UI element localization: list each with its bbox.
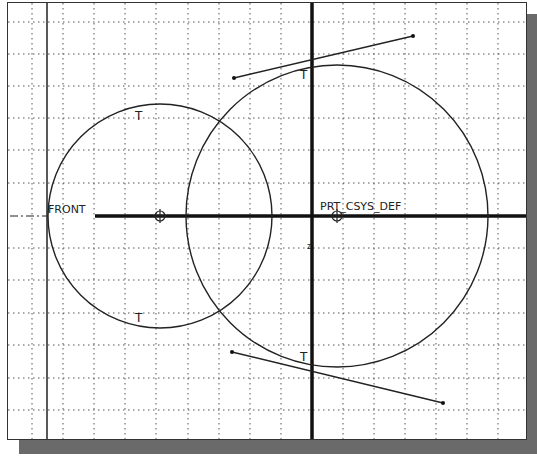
small-circle-center-icon[interactable] (153, 209, 167, 223)
tangent-constraint-large-top[interactable]: T (299, 68, 308, 82)
tangent-constraint-small-top[interactable]: T (134, 109, 143, 123)
axis-marker-label: z (307, 242, 311, 251)
sketch-drawing[interactable]: FRONT PRT_CSYS_DEF z T T T T (0, 0, 537, 457)
grid (8, 3, 526, 440)
top-tangent-endpoint-right[interactable] (411, 34, 415, 38)
csys-label: PRT_CSYS_DEF (320, 200, 401, 213)
tangent-constraint-large-bottom[interactable]: T (299, 350, 308, 364)
bottom-tangent-endpoint-right[interactable] (441, 401, 445, 405)
tangent-constraint-small-bottom[interactable]: T (134, 311, 143, 325)
front-plane-label: FRONT (48, 203, 86, 216)
bottom-tangent-endpoint-left[interactable] (230, 350, 234, 354)
top-tangent-endpoint-left[interactable] (232, 76, 236, 80)
top-tangent-line[interactable] (234, 36, 413, 78)
